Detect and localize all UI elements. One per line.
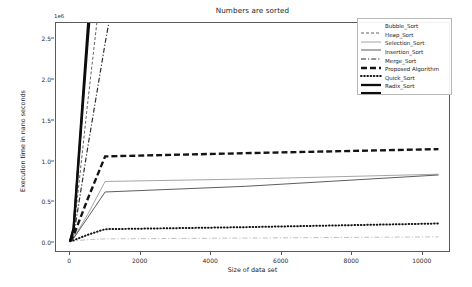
legend-label: Radix_Sort	[385, 82, 414, 90]
x-tick-mark	[351, 252, 352, 255]
y-tick-label: 0.5	[5, 198, 51, 205]
y-tick-label: 0.0	[5, 239, 51, 246]
y-tick-mark	[51, 38, 54, 39]
x-axis-label: Size of data set	[55, 266, 450, 274]
y-tick-label: 1.5	[5, 116, 51, 123]
legend-item[interactable]: Heap_Sort	[360, 31, 448, 40]
x-tick-label: 8000	[344, 257, 359, 264]
y-axis-offset-text: 1e6	[54, 13, 64, 19]
legend-swatch-icon	[360, 39, 382, 47]
y-tick-label: 2.0	[5, 76, 51, 83]
legend-item[interactable]: Selection_Sort	[360, 39, 448, 48]
y-axis-label: Execution time in nano seconds	[19, 71, 27, 211]
series-line-low-flat-trace	[70, 237, 438, 241]
y-tick-mark	[51, 201, 54, 202]
chart-legend: Bubble_SortHeap_SortSelection_SortInsert…	[357, 18, 452, 95]
legend-swatch-icon	[360, 48, 382, 56]
x-tick-mark	[281, 252, 282, 255]
y-tick-mark	[51, 242, 54, 243]
legend-label: Bubble_Sort	[385, 22, 418, 30]
x-tick-label: 10000	[412, 257, 431, 264]
series-line-selection-sort	[70, 175, 438, 241]
x-tick-mark	[69, 252, 70, 255]
y-tick-mark	[51, 79, 54, 80]
legend-swatch-icon	[360, 22, 382, 30]
x-tick-label: 0	[67, 257, 71, 264]
legend-label: Merge_Sort	[385, 57, 416, 65]
legend-label: Selection_Sort	[385, 39, 424, 47]
y-tick-mark	[51, 160, 54, 161]
series-line-heap-sort	[70, 174, 438, 241]
legend-item[interactable]: Bubble_Sort	[360, 22, 448, 31]
legend-swatch-icon	[360, 57, 382, 65]
legend-swatch-icon	[360, 31, 382, 39]
y-tick-label: 1.0	[5, 157, 51, 164]
series-line-merge-sort	[70, 149, 438, 241]
legend-label: Quick_Sort	[385, 74, 415, 82]
y-tick-mark	[51, 119, 54, 120]
x-tick-mark	[422, 252, 423, 255]
legend-swatch-icon	[360, 82, 382, 90]
legend-item[interactable]: Quick_Sort	[360, 74, 448, 83]
legend-item[interactable]: Proposed Algorithm	[360, 65, 448, 74]
legend-label: Heap_Sort	[385, 31, 413, 39]
x-tick-mark	[140, 252, 141, 255]
chart-title: Numbers are sorted	[55, 6, 450, 15]
legend-label: Insertion_Sort	[385, 48, 423, 56]
x-tick-label: 6000	[273, 257, 288, 264]
legend-item[interactable]: Radix_Sort	[360, 82, 448, 91]
y-tick-label: 2.5	[5, 35, 51, 42]
legend-label: Proposed Algorithm	[385, 65, 439, 73]
legend-item[interactable]: Insertion_Sort	[360, 48, 448, 57]
legend-swatch-icon	[360, 65, 382, 73]
x-tick-label: 2000	[132, 257, 147, 264]
x-tick-mark	[210, 252, 211, 255]
chart-figure: Numbers are sorted 1e6 0.00.51.01.52.02.…	[0, 0, 472, 287]
x-tick-label: 4000	[203, 257, 218, 264]
legend-item[interactable]: Merge_Sort	[360, 56, 448, 65]
legend-swatch-icon	[360, 74, 382, 82]
